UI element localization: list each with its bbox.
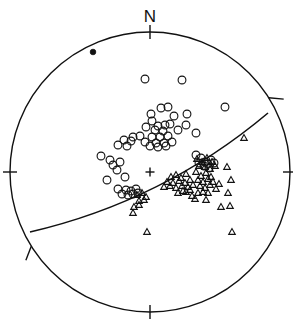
azimuth-tick-ne-oblique-tick (269, 98, 284, 99)
data-point-open-triangle (203, 197, 210, 203)
data-point-open-triangle (241, 135, 248, 141)
data-point-open-circle (116, 158, 124, 166)
stereonet-canvas: N (0, 0, 293, 319)
data-point-open-circle (142, 123, 150, 131)
center-cross-group (146, 168, 155, 177)
data-point-open-circle (114, 185, 122, 193)
data-point-open-circle (113, 166, 121, 174)
data-point-open-circle (192, 129, 200, 137)
data-point-open-circle (170, 112, 178, 120)
data-point-open-triangle (218, 204, 225, 210)
data-point-open-triangle (229, 229, 236, 235)
data-point-open-triangle (195, 177, 202, 183)
data-point-open-circle (114, 141, 122, 149)
open-circle-series-group (97, 75, 229, 199)
data-point-open-triangle (225, 190, 232, 196)
data-point-open-circle (166, 120, 174, 128)
data-point-open-circle (103, 176, 111, 184)
data-point-open-triangle (197, 183, 204, 189)
data-point-open-triangle (193, 169, 200, 175)
data-point-open-circle (182, 121, 190, 129)
data-point-open-triangle (130, 210, 137, 216)
data-point-open-circle (121, 173, 129, 181)
data-point-open-circle (97, 152, 105, 160)
data-point-open-circle (178, 76, 186, 84)
data-point-open-triangle (228, 177, 235, 183)
data-point-filled-dot (90, 49, 96, 55)
data-point-open-triangle (144, 229, 151, 235)
data-point-open-triangle (216, 181, 223, 187)
data-point-open-triangle (224, 164, 231, 170)
azimuth-tick-sw-oblique-tick (26, 246, 31, 260)
filled-dot-series-group (90, 49, 96, 55)
stereonet-figure: N (0, 0, 293, 319)
data-point-open-circle (141, 75, 149, 83)
data-point-open-circle (174, 126, 182, 134)
data-point-open-triangle (187, 177, 194, 183)
data-point-open-circle (141, 138, 149, 146)
data-point-open-circle (221, 103, 229, 111)
north-label: N (144, 7, 156, 26)
data-point-open-circle (183, 110, 191, 118)
data-point-open-triangle (227, 203, 234, 209)
